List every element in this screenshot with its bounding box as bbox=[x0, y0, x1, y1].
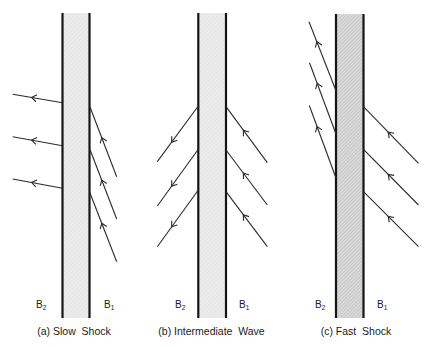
panel-a-geometry bbox=[13, 13, 117, 318]
upstream-field-line bbox=[90, 192, 117, 262]
panel-slow-shock: B2 B1 (a) Slow Shock bbox=[13, 13, 117, 337]
downstream-field-line bbox=[157, 190, 198, 247]
upstream-field-line bbox=[364, 192, 419, 247]
panel-intermediate-wave: B2 B1 (b) Intermediate Wave bbox=[157, 13, 267, 337]
panel-b-geometry bbox=[157, 13, 267, 318]
label-b1-upstream: B1 bbox=[377, 299, 388, 311]
upstream-field-line bbox=[226, 150, 267, 205]
label-b2-downstream: B2 bbox=[315, 299, 326, 311]
caption-intermediate-wave: (b) Intermediate Wave bbox=[158, 325, 265, 337]
caption-slow-shock: (a) Slow Shock bbox=[37, 325, 111, 337]
caption-fast-shock: (c) Fast Shock bbox=[321, 325, 392, 337]
shock-layer-shading bbox=[336, 14, 364, 318]
upstream-field-line bbox=[90, 106, 117, 177]
downstream-field-line bbox=[157, 106, 198, 162]
downstream-field-line bbox=[13, 94, 63, 102]
downstream-field-line bbox=[157, 149, 198, 206]
shock-layer-shading bbox=[198, 13, 226, 318]
downstream-field-line bbox=[309, 22, 336, 91]
shock-layer-shading bbox=[63, 13, 90, 318]
label-b1-upstream: B1 bbox=[239, 299, 250, 311]
downstream-field-line bbox=[13, 137, 63, 146]
downstream-field-line bbox=[13, 179, 63, 188]
label-b1-upstream: B1 bbox=[104, 299, 115, 311]
label-b2-downstream: B2 bbox=[175, 299, 186, 311]
upstream-field-line bbox=[364, 149, 419, 205]
upstream-field-line bbox=[226, 192, 267, 247]
label-b2-downstream: B2 bbox=[36, 299, 47, 311]
panel-c-geometry bbox=[309, 14, 419, 318]
panel-fast-shock: B2 B1 (c) Fast Shock bbox=[309, 14, 419, 337]
mhd-discontinuity-diagram: B2 B1 (a) Slow Shock B2 B1 (b) Intermedi… bbox=[0, 0, 430, 347]
upstream-field-line bbox=[364, 107, 419, 164]
downstream-field-line bbox=[310, 63, 337, 134]
downstream-field-line bbox=[309, 106, 336, 179]
upstream-field-line bbox=[90, 148, 117, 219]
upstream-field-line bbox=[226, 107, 267, 163]
